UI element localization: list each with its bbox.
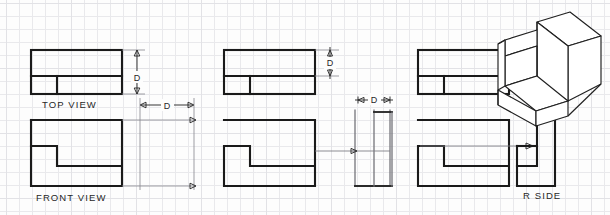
- depth-dimension-vertical-label: D: [134, 73, 141, 83]
- top-view-label: TOP VIEW: [42, 99, 97, 110]
- front-view-label: FRONT VIEW: [36, 192, 106, 203]
- depth-dimension-horizontal-label: D: [164, 101, 171, 111]
- drawing-sheet: TOP VIEW FRONT VIEW D: [0, 0, 610, 215]
- depth-dimension-horizontal-label-middle: D: [371, 95, 378, 105]
- right-side-view-label: R SIDE: [523, 190, 561, 201]
- depth-dimension-vertical-label-middle: D: [327, 58, 334, 68]
